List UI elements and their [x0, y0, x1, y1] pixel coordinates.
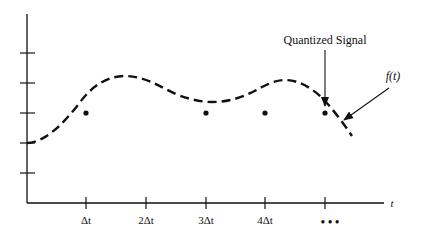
x-axis-label: t [390, 197, 394, 209]
quantized-signal-diagram: Δt 2Δt 3Δt 4Δt • • • t Quantized Signal … [0, 0, 422, 238]
y-axis [20, 14, 35, 203]
function-arrow [344, 88, 389, 120]
x-axis: Δt 2Δt 3Δt 4Δt • • • t [27, 197, 394, 229]
x-tick-label: Δt [81, 214, 91, 226]
sample-point [262, 110, 267, 115]
sample-point [322, 110, 327, 115]
function-label: f(t) [386, 69, 401, 83]
continuation-dots: • • • [321, 215, 340, 229]
x-tick-label: 2Δt [138, 214, 154, 226]
x-tick-label: 3Δt [198, 214, 214, 226]
x-tick-label: 4Δt [257, 214, 273, 226]
sample-points [83, 110, 327, 115]
sample-point [83, 110, 88, 115]
function-curve [27, 76, 352, 143]
sample-point [203, 110, 208, 115]
quantized-signal-label: Quantized Signal [284, 33, 368, 47]
